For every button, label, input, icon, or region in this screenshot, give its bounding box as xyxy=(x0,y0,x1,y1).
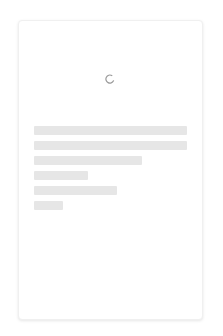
skeleton-text-placeholder xyxy=(34,126,188,216)
skeleton-line-4 xyxy=(34,171,88,180)
skeleton-line-1 xyxy=(34,126,187,135)
skeleton-line-2 xyxy=(34,141,187,150)
loading-card xyxy=(18,20,203,320)
skeleton-line-3 xyxy=(34,156,142,165)
loading-spinner-icon xyxy=(105,74,115,84)
skeleton-line-5 xyxy=(34,186,117,195)
skeleton-line-6 xyxy=(34,201,63,210)
